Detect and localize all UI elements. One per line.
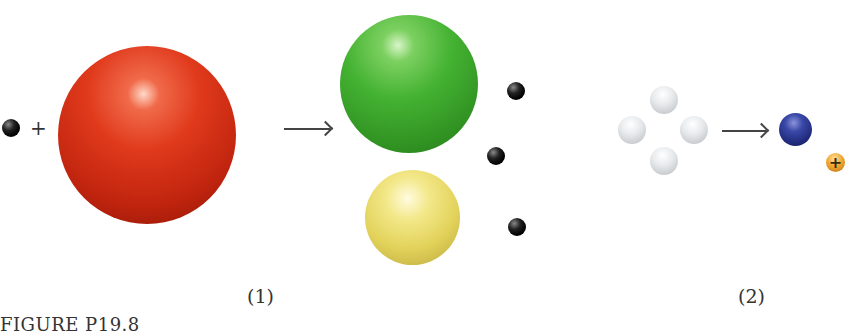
fission-fragment-yellow xyxy=(365,170,460,265)
large-nucleus xyxy=(58,46,236,224)
product-neutron-3 xyxy=(508,218,526,236)
proton-right xyxy=(680,116,708,144)
incoming-neutron xyxy=(2,119,20,137)
reaction-arrow-1 xyxy=(284,128,330,130)
proton-left xyxy=(618,116,646,144)
panel-2-label: (2) xyxy=(738,285,765,307)
proton-bottom xyxy=(650,147,678,175)
fission-fragment-green xyxy=(340,15,478,153)
product-neutron-1 xyxy=(507,82,525,100)
helium-nucleus xyxy=(779,113,812,146)
proton-top xyxy=(650,86,678,114)
positron-plus-icon: + xyxy=(829,155,842,171)
panel-1-label: (1) xyxy=(247,285,274,307)
product-neutron-2 xyxy=(487,147,505,165)
positron: + xyxy=(826,153,845,172)
plus-sign: + xyxy=(30,116,47,140)
figure-caption: FIGURE P19.8 xyxy=(0,314,140,335)
reaction-arrow-2 xyxy=(722,130,766,132)
